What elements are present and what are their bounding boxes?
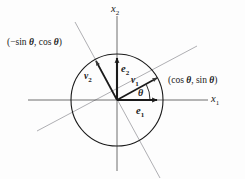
unit-circle-diagram: x2 x1 (−sin θ, cos θ) (cos θ, sin θ) e2 … <box>0 0 245 179</box>
diagram-canvas <box>0 0 245 179</box>
coordinate-label-v2: (−sin θ, cos θ) <box>7 38 62 48</box>
vector-label-v2: v2 <box>84 72 92 84</box>
axis-label-x1: x1 <box>211 94 219 107</box>
coordinate-label-v1: (cos θ, sin θ) <box>168 76 217 86</box>
axis-label-x2: x2 <box>111 4 119 17</box>
vector-label-e1: e1 <box>136 106 144 119</box>
angle-label-theta: θ <box>138 88 143 98</box>
theta-arc <box>146 85 150 101</box>
vector-label-e2: e2 <box>121 64 129 77</box>
